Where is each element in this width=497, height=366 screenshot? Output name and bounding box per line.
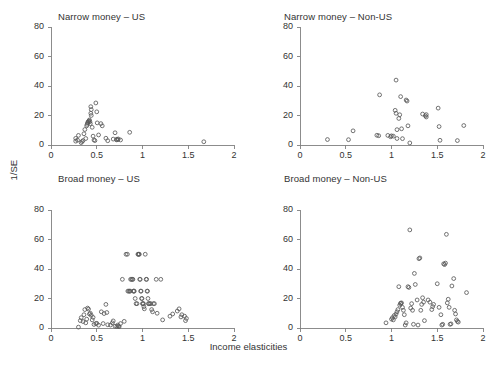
y-tick-label: 60 [11, 234, 44, 244]
data-point [412, 272, 416, 276]
data-point [450, 284, 454, 288]
data-point [90, 125, 94, 129]
data-point [155, 311, 159, 315]
data-point [95, 121, 99, 125]
x-axis-label: Income elasticities [0, 341, 497, 352]
data-point [395, 137, 399, 141]
data-point [400, 127, 404, 131]
data-point [416, 323, 420, 327]
x-tick-label: 1.5 [422, 150, 452, 160]
data-point [83, 128, 87, 132]
x-tick-label: 1 [377, 150, 407, 160]
data-point [408, 141, 412, 145]
data-point [437, 305, 441, 309]
data-point [410, 302, 414, 306]
data-point [419, 308, 423, 312]
data-point [455, 139, 459, 143]
panel-narrow-money-us: Narrow money – US 02040608000.511.52 [0, 0, 248, 183]
y-tick-label: 80 [11, 204, 44, 214]
data-point [413, 283, 417, 287]
data-point [133, 297, 137, 301]
data-point [394, 78, 398, 82]
x-tick-label: 0.5 [82, 150, 112, 160]
data-point [161, 318, 165, 322]
data-point [159, 277, 163, 281]
data-point [452, 277, 456, 281]
y-tick-label: 20 [260, 110, 293, 120]
data-point [462, 124, 466, 128]
data-point [154, 277, 158, 281]
y-tick-label: 0 [260, 139, 293, 149]
data-point [421, 296, 425, 300]
data-point [397, 117, 401, 121]
y-tick-label: 60 [260, 234, 293, 244]
data-point [453, 308, 457, 312]
data-point [378, 93, 382, 97]
data-point [122, 319, 126, 323]
panel-narrow-money-non-us: Narrow money – Non-US 02040608000.511.52 [249, 0, 497, 183]
data-point [95, 110, 99, 114]
data-point [408, 228, 412, 232]
data-point [438, 138, 442, 142]
data-point [120, 277, 124, 281]
x-tick-label: 0 [36, 150, 66, 160]
data-point [402, 313, 406, 317]
data-point [104, 303, 108, 307]
data-point [395, 128, 399, 132]
data-point [436, 106, 440, 110]
y-tick-label: 80 [260, 204, 293, 214]
data-point [143, 252, 147, 256]
data-point [82, 313, 86, 317]
meta-analysis-funnel-plot-figure: Narrow money – US 02040608000.511.52 Nar… [0, 0, 497, 366]
data-point [82, 132, 86, 136]
data-point [94, 101, 98, 105]
data-point [101, 322, 105, 326]
y-tick-label: 0 [260, 322, 293, 332]
y-tick-label: 40 [260, 263, 293, 273]
data-point [113, 131, 117, 135]
data-point [401, 137, 405, 141]
data-point [171, 312, 175, 316]
data-point [351, 129, 355, 133]
data-point [77, 134, 81, 138]
data-point [423, 319, 427, 323]
y-tick-label: 40 [11, 80, 44, 90]
panel-broad-money-non-us: Broad money – Non-US 02040608000.511.52 [249, 183, 497, 366]
data-point [397, 285, 401, 289]
x-tick-label: 2 [468, 150, 497, 160]
data-point [435, 282, 439, 286]
data-point [85, 317, 89, 321]
data-point [398, 113, 402, 117]
data-point [446, 297, 450, 301]
y-tick-label: 20 [11, 293, 44, 303]
y-tick-label: 80 [11, 21, 44, 31]
x-tick-label: 2 [219, 150, 249, 160]
data-point [405, 99, 409, 103]
data-point [326, 138, 330, 142]
data-point [465, 291, 469, 295]
y-tick-label: 60 [260, 51, 293, 61]
data-point [128, 130, 132, 134]
data-point [412, 322, 416, 326]
data-point [454, 312, 458, 316]
y-tick-label: 20 [260, 293, 293, 303]
x-tick-label: 0 [285, 150, 315, 160]
data-point [347, 138, 351, 142]
x-tick-label: 0.5 [331, 150, 361, 160]
data-point [146, 297, 150, 301]
data-point [437, 125, 441, 129]
data-point [87, 307, 91, 311]
data-point [445, 232, 449, 236]
y-tick-label: 20 [11, 110, 44, 120]
y-tick-label: 40 [11, 263, 44, 273]
data-point [406, 124, 410, 128]
data-point [384, 321, 388, 325]
data-point [399, 95, 403, 99]
y-tick-label: 80 [260, 21, 293, 31]
data-point [84, 137, 88, 141]
data-point [445, 301, 449, 305]
y-tick-label: 0 [11, 322, 44, 332]
y-tick-label: 60 [11, 51, 44, 61]
data-point [447, 305, 451, 309]
data-point [97, 133, 101, 137]
